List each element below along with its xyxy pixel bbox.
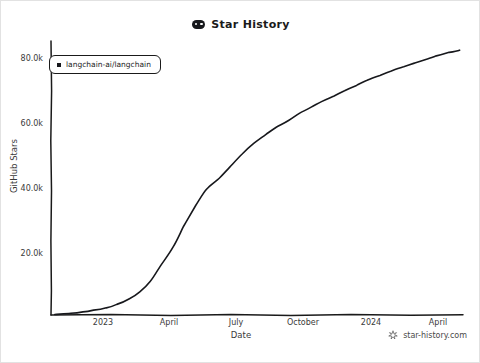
y-axis-title: GitHub Stars (9, 139, 19, 193)
legend[interactable]: langchain-ai/langchain (49, 55, 161, 74)
series-langchain (55, 50, 460, 314)
x-tick-april-2023: April (160, 318, 178, 327)
x-tick-july-2023: July (229, 318, 243, 327)
sparkle-icon (388, 330, 398, 340)
x-tick-april-2024: April (429, 318, 447, 327)
legend-marker-langchain (57, 63, 61, 67)
x-tick-2024: 2024 (361, 318, 381, 327)
watermark-text: star-history.com (403, 331, 467, 340)
x-tick-2023: 2023 (93, 318, 113, 327)
watermark[interactable]: star-history.com (388, 330, 467, 340)
series-line-langchain (55, 50, 460, 314)
y-axis-line (51, 41, 52, 315)
x-tick-october-2023: October (287, 318, 319, 327)
y-tick-80k: 80.0k (11, 54, 43, 63)
legend-label-langchain: langchain-ai/langchain (66, 60, 151, 69)
y-tick-20k: 20.0k (11, 249, 43, 258)
y-tick-60k: 60.0k (11, 119, 43, 128)
star-history-chart: Star History 20.0k 40.0k 60.0k 80.0k 202… (0, 0, 480, 363)
axis-lines (51, 41, 463, 316)
x-axis-line (51, 314, 463, 315)
